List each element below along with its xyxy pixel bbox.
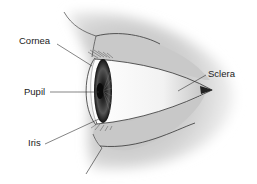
label-sclera: Sclera (208, 69, 235, 79)
pupil (97, 83, 104, 99)
label-cornea: Cornea (19, 36, 50, 46)
label-iris: Iris (28, 138, 41, 148)
label-pupil: Pupil (24, 87, 45, 97)
